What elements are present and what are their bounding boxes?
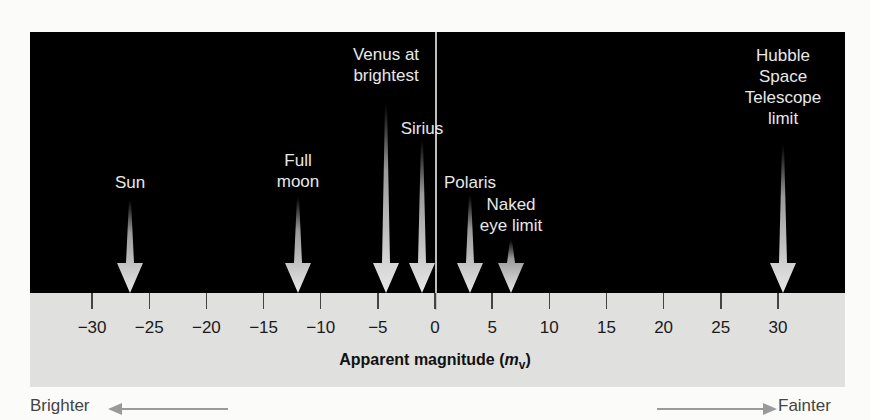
axis-tick-label: 20 xyxy=(639,318,689,338)
magnitude-scale-band xyxy=(30,293,845,387)
object-label: Venus at brightest xyxy=(353,44,419,86)
axis-tick xyxy=(320,293,322,309)
axis-tick-label: 30 xyxy=(753,318,803,338)
object-label: Hubble Space Telescope limit xyxy=(745,45,822,129)
axis-tick-label: −30 xyxy=(67,318,117,338)
axis-tick xyxy=(606,293,608,309)
down-arrow-icon xyxy=(373,104,399,293)
axis-tick-label: −25 xyxy=(124,318,174,338)
object-label: Naked eye limit xyxy=(480,194,542,236)
brighter-label: Brighter xyxy=(30,396,90,416)
axis-tick xyxy=(206,293,208,309)
axis-tick-label: −20 xyxy=(181,318,231,338)
axis-tick-label: 10 xyxy=(524,318,574,338)
down-arrow-icon xyxy=(117,200,143,293)
axis-tick xyxy=(149,293,151,309)
object-label: Polaris xyxy=(444,172,496,193)
down-arrow-icon xyxy=(770,145,796,293)
axis-tick-label: 0 xyxy=(410,318,460,338)
axis-tick xyxy=(720,293,722,309)
axis-tick-label: 25 xyxy=(696,318,746,338)
down-arrow-icon xyxy=(285,197,311,293)
axis-tick xyxy=(777,293,779,309)
axis-title: Apparent magnitude (mv) xyxy=(0,351,870,372)
axis-tick xyxy=(663,293,665,309)
axis-tick xyxy=(549,293,551,309)
axis-tick xyxy=(491,293,493,309)
axis-tick xyxy=(377,293,379,309)
axis-tick-label: −15 xyxy=(239,318,289,338)
object-label: Sirius xyxy=(401,118,444,139)
axis-tick xyxy=(263,293,265,309)
right-arrow-icon xyxy=(657,401,777,417)
axis-tick xyxy=(91,293,93,309)
axis-tick-label: −10 xyxy=(296,318,346,338)
object-label: Full moon xyxy=(277,150,320,192)
left-arrow-icon xyxy=(108,401,228,417)
down-arrow-icon xyxy=(409,140,435,293)
axis-tick-label: 5 xyxy=(467,318,517,338)
object-label: Sun xyxy=(115,172,145,193)
dark-sky-panel xyxy=(30,32,845,293)
down-arrow-icon xyxy=(498,240,524,293)
axis-tick-label: 15 xyxy=(581,318,631,338)
fainter-label: Fainter xyxy=(778,396,831,416)
zero-magnitude-line xyxy=(435,32,437,310)
axis-tick xyxy=(434,293,436,309)
axis-tick-label: −5 xyxy=(353,318,403,338)
